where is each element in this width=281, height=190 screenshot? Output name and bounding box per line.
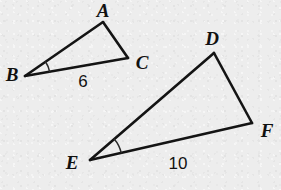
triangle-def <box>90 53 252 160</box>
vertex-label-a: A <box>97 1 110 20</box>
triangles-drawing <box>0 0 281 190</box>
edge-b-c <box>25 58 128 76</box>
angle-arc-e <box>114 139 121 153</box>
edge-d-f <box>214 53 252 123</box>
vertex-label-c: C <box>136 53 149 72</box>
side-length-ef: 10 <box>169 155 188 172</box>
angle-arc-b <box>46 62 50 72</box>
triangle-abc <box>25 22 128 76</box>
vertex-label-b: B <box>6 65 19 84</box>
vertex-label-e: E <box>66 153 79 172</box>
edge-e-d <box>90 53 214 160</box>
vertex-label-f: F <box>261 121 274 140</box>
geometry-figure: A B C D E F 6 10 <box>0 0 281 190</box>
edge-a-c <box>103 22 128 58</box>
side-length-bc: 6 <box>78 73 87 90</box>
vertex-label-d: D <box>205 29 219 48</box>
